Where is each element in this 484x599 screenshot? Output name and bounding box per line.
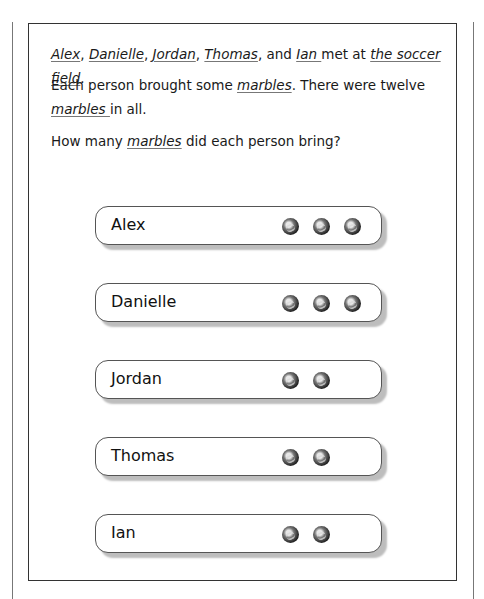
text-segment: , and <box>258 46 296 62</box>
person-name: Jordan <box>111 369 162 388</box>
marble-icon <box>282 218 299 235</box>
text-segment: Each person brought some <box>51 77 237 93</box>
underlined-term: marbles <box>51 101 110 117</box>
person-name: Thomas <box>111 446 174 465</box>
problem-sentence-2: Each person brought some marbles. There … <box>51 73 446 121</box>
page-margin-line-right <box>473 22 474 599</box>
underlined-term: Jordan <box>153 46 196 62</box>
text-segment: in all. <box>110 101 147 117</box>
person-row: Jordan <box>95 360 382 399</box>
marble-icon <box>313 295 330 312</box>
marble-icon <box>344 218 361 235</box>
person-row: Danielle <box>95 283 382 322</box>
marble-icon <box>282 449 299 466</box>
text-segment: How many <box>51 133 127 149</box>
underlined-term: Ian <box>296 46 321 62</box>
person-name: Alex <box>111 215 145 234</box>
text-segment: , <box>144 46 153 62</box>
person-name: Danielle <box>111 292 176 311</box>
marble-group <box>282 218 361 235</box>
underlined-term: Thomas <box>204 46 258 62</box>
text-segment: did each person bring? <box>182 133 341 149</box>
text-segment: met at <box>321 46 370 62</box>
text-segment: , <box>80 46 89 62</box>
underlined-term: Danielle <box>89 46 144 62</box>
marble-icon <box>282 526 299 543</box>
marble-group <box>282 526 330 543</box>
marble-icon <box>344 295 361 312</box>
text-segment: . There were twelve <box>292 77 425 93</box>
person-row: Alex <box>95 206 382 245</box>
person-row: Thomas <box>95 437 382 476</box>
underlined-term: Alex <box>51 46 80 62</box>
person-row: Ian <box>95 514 382 553</box>
marble-group <box>282 449 330 466</box>
problem-question: How many marbles did each person bring? <box>51 129 446 153</box>
marble-icon <box>313 372 330 389</box>
marble-group <box>282 372 330 389</box>
marble-group <box>282 295 361 312</box>
marble-icon <box>282 372 299 389</box>
marble-icon <box>282 295 299 312</box>
page-margin-line-left <box>12 22 13 599</box>
underlined-term: marbles <box>237 77 292 93</box>
underlined-term: marbles <box>127 133 182 149</box>
marble-icon <box>313 449 330 466</box>
marble-icon <box>313 218 330 235</box>
person-name: Ian <box>111 523 136 542</box>
marble-icon <box>313 526 330 543</box>
